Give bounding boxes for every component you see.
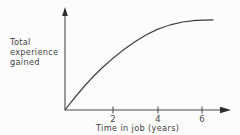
- learning-curve-chart: 2 4 6 Total experience gained Time in jo…: [0, 0, 240, 135]
- x-tick-label-6: 6: [199, 114, 205, 124]
- y-axis-label-line-3: gained: [10, 57, 40, 67]
- x-axis-label: Time in job (years): [95, 123, 179, 133]
- y-axis-label-line-2: experience: [10, 47, 58, 57]
- y-axis-label-line-1: Total: [9, 37, 31, 47]
